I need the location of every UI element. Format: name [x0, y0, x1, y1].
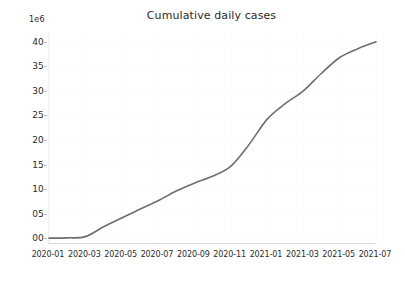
y-axis-tick-label: 40	[18, 37, 44, 47]
y-axis-tick-label: 15	[18, 160, 44, 170]
y-axis-tick-mark	[44, 238, 47, 239]
x-axis-tick-label: 2021-07	[351, 250, 399, 260]
y-axis-tick-label: 25	[18, 110, 44, 120]
y-axis-tick-label: 00	[18, 233, 44, 243]
y-axis-tick-label: 10	[18, 184, 44, 194]
y-axis-tick-label: 05	[18, 209, 44, 219]
y-axis-tick-labels: 000510152025303540	[14, 32, 44, 244]
chart-title: Cumulative daily cases	[48, 9, 375, 22]
y-axis-tick-label: 30	[18, 86, 44, 96]
plot-area	[48, 32, 375, 244]
data-series-line	[49, 32, 376, 244]
y-axis-tick-mark	[44, 189, 47, 190]
y-axis-tick-mark	[44, 66, 47, 67]
y-axis-tick-mark	[44, 165, 47, 166]
gridline-vertical	[376, 32, 377, 243]
y-axis-tick-label: 35	[18, 61, 44, 71]
y-axis-offset-label: 1e6	[29, 15, 45, 24]
cumulative-cases-path	[49, 42, 376, 238]
y-axis-tick-label: 20	[18, 135, 44, 145]
x-axis-tick-labels: 2020-012020-032020-052020-072020-092020-…	[48, 250, 375, 270]
y-axis-tick-mark	[44, 115, 47, 116]
y-axis-tick-mark	[44, 140, 47, 141]
y-axis-tick-mark	[44, 214, 47, 215]
y-axis-tick-mark	[44, 91, 47, 92]
chart-figure: 1e6 Cumulative daily cases 0005101520253…	[0, 0, 405, 281]
y-axis-tick-mark	[44, 42, 47, 43]
